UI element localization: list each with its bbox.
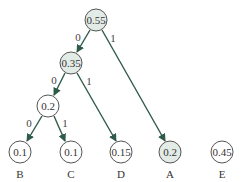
node-02: 0.2 [37,95,59,117]
bit-label: 0 [75,31,81,43]
node-root: 0.55 [85,9,107,31]
svg-text:E: E [219,168,226,180]
svg-text:0.1: 0.1 [13,146,27,158]
leaf-D: 0.15 D [110,141,132,180]
bit-label: 0 [26,117,32,129]
leaf-A: 0.2 A [159,141,181,180]
svg-text:0.2: 0.2 [41,100,55,112]
bit-label: 1 [110,32,116,44]
node-035: 0.35 [60,52,82,74]
huffman-tree-diagram: 0 1 0 1 0 1 0.55 0.35 0.2 0.1 B 0.1 C 0.… [0,0,241,182]
leaf-C: 0.1 C [60,141,82,180]
svg-text:C: C [67,168,74,180]
bit-label: 1 [86,75,92,87]
svg-text:0.1: 0.1 [64,146,78,158]
bit-label: 1 [62,117,68,129]
leaf-E: 0.45 E [211,141,233,180]
svg-text:0.45: 0.45 [212,146,232,158]
edge-root-1 [102,30,165,141]
edge-035-1 [77,73,116,141]
svg-text:0.15: 0.15 [111,146,131,158]
svg-text:B: B [16,168,23,180]
svg-text:A: A [166,168,174,180]
bit-label: 0 [51,74,57,86]
svg-text:D: D [117,168,125,180]
svg-text:0.2: 0.2 [163,146,177,158]
svg-text:0.35: 0.35 [61,57,81,69]
svg-text:0.55: 0.55 [86,14,106,26]
leaf-B: 0.1 B [9,141,31,180]
